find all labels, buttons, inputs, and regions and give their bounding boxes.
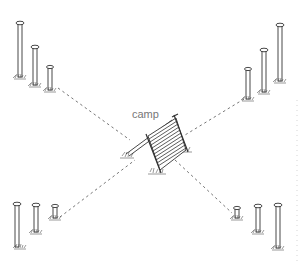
dashed-line-bottom-right [175,160,232,213]
post-icon [230,206,243,220]
post-icon [43,65,56,92]
post-icon [251,204,264,234]
camp-label: camp [132,108,159,120]
post-icon [48,204,61,220]
post-icon [271,203,284,250]
post-group-bottom-left [13,202,61,249]
dashed-line-top-left [58,88,130,140]
post-icon [241,67,254,101]
post-icon [13,202,26,249]
post-group-top-right [241,23,286,101]
post-icon [28,45,41,87]
dashed-line-bottom-left [60,160,135,217]
dashed-line-top-right [185,99,244,135]
lean-to-shelter-icon [120,114,192,174]
post-icon [273,23,286,83]
post-icon [257,48,270,94]
post-group-bottom-right [230,203,284,250]
post-icon [13,21,26,79]
post-group-top-left [13,21,56,92]
campsite-diagram [0,0,300,267]
post-icon [29,203,42,234]
